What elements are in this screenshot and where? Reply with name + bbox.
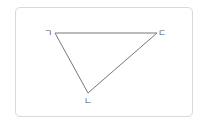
triangle-shape — [55, 33, 157, 93]
triangle-diagram: ㄱ ㄷ ㄴ — [0, 0, 205, 125]
vertex-label-bottom: ㄴ — [84, 96, 92, 106]
vertex-label-top-left: ㄱ — [44, 28, 52, 38]
vertex-label-top-right: ㄷ — [158, 28, 166, 38]
